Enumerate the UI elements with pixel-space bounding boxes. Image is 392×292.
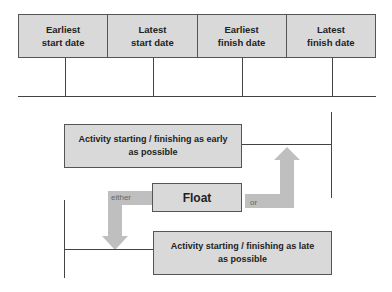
left-vertical-line [64, 200, 65, 278]
late-connector-line [64, 249, 153, 250]
right-vertical-line [331, 112, 332, 198]
early-connector-line [241, 144, 332, 145]
early-box-line1: Activity starting / finishing as early [78, 134, 227, 144]
late-activity-box: Activity starting / finishing as lateas … [153, 231, 332, 275]
float-label: Float [183, 191, 212, 205]
late-box-line2: as possible [218, 254, 267, 264]
or-label: or [250, 198, 257, 207]
float-box: Float [152, 183, 242, 212]
early-activity-box: Activity starting / finishing as earlyas… [64, 124, 242, 168]
either-label: either [111, 193, 131, 202]
early-box-line2: as possible [128, 147, 177, 157]
late-box-line1: Activity starting / finishing as late [171, 241, 315, 251]
